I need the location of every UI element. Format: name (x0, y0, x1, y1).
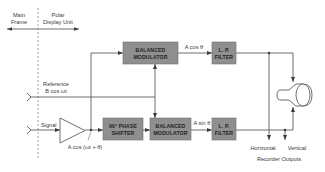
sin-output-label: A sin θ (194, 120, 211, 126)
svg-text:L. P.: L. P. (219, 123, 230, 129)
svg-text:BALANCED: BALANCED (156, 123, 186, 129)
svg-text:MODULATOR: MODULATOR (153, 130, 187, 136)
svg-text:L. P.: L. P. (219, 47, 230, 53)
phase-detector-block-diagram: Main Frame Polar Display Unit Reference … (0, 0, 325, 172)
section-header: Main Frame Polar Display Unit (7, 12, 79, 31)
lp-filter-bottom: L. P. FILTER (212, 118, 236, 140)
main-frame-label-line1: Main (13, 12, 25, 18)
input-connector-icon (27, 93, 31, 101)
cos-output-label: A cos θ (185, 44, 203, 50)
vertical-output-label: Vertical (288, 145, 306, 151)
svg-text:MODULATOR: MODULATOR (133, 54, 167, 60)
horizontal-output-label: Horizontal (250, 145, 275, 151)
balanced-modulator-top: BALANCED MODULATOR (123, 42, 178, 64)
amplifier-output-label: A cos (ωt + θ) (68, 144, 103, 150)
crt-display-icon (277, 84, 312, 106)
arrow-left-icon (7, 27, 12, 30)
polar-display-label-line2: Display Unit (43, 19, 73, 25)
input-connector-icon (27, 126, 31, 134)
svg-text:FILTER: FILTER (215, 54, 234, 60)
lp-filter-top: L. P. FILTER (212, 42, 236, 64)
svg-text:90° PHASE: 90° PHASE (109, 123, 137, 129)
recorder-outputs-caption: Recorder Outputs (257, 156, 301, 162)
reference-label: Reference (43, 81, 69, 87)
main-frame-label-line2: Frame (11, 19, 27, 25)
signal-label: Signal (41, 122, 57, 128)
reference-formula-label: B cos ωt (45, 88, 67, 94)
svg-text:BALANCED: BALANCED (136, 47, 166, 53)
balanced-modulator-bottom: BALANCED MODULATOR (150, 118, 191, 140)
signal-input: Signal (27, 122, 60, 134)
svg-text:SHIFTER: SHIFTER (112, 130, 135, 136)
arrow-right-icon (74, 27, 79, 30)
phase-shifter: 90° PHASE SHIFTER (103, 118, 143, 140)
svg-text:FILTER: FILTER (215, 130, 234, 136)
polar-display-label-line1: Polar (51, 12, 64, 18)
triangle-amplifier-icon (60, 118, 85, 143)
